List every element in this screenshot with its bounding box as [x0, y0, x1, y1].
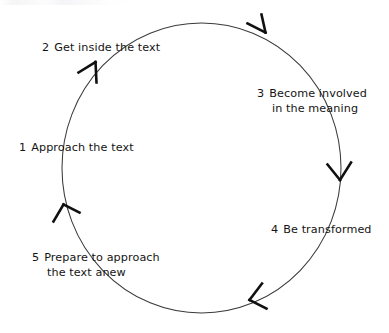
arrowhead-right-icon — [328, 163, 352, 181]
arrowhead-left-upper-icon — [79, 62, 97, 83]
arrowhead-left-lower-icon — [54, 205, 80, 222]
cycle-step-5-text-line2: the text anew — [47, 266, 160, 281]
cycle-step-3-text-line2: in the meaning — [272, 102, 367, 117]
arrowhead-top-right-icon — [248, 15, 266, 33]
arrowhead-bottom-icon — [250, 284, 267, 309]
cycle-step-5-label: 5Prepare to approach the text anew — [32, 251, 160, 280]
cycle-step-4-label: 4Be transformed — [271, 223, 372, 238]
cycle-step-4-text: Be transformed — [283, 223, 371, 236]
cycle-step-1-number: 1 — [19, 141, 26, 154]
cycle-step-2-text: Get inside the text — [54, 41, 160, 54]
cycle-step-3-label: 3Become involved in the meaning — [257, 87, 367, 116]
cycle-step-5-text: Prepare to approach — [44, 251, 160, 264]
cycle-step-1-label: 1Approach the text — [19, 141, 134, 156]
cycle-step-4-number: 4 — [271, 223, 278, 236]
cycle-step-2-label: 2Get inside the text — [42, 41, 160, 56]
cycle-step-2-number: 2 — [42, 41, 49, 54]
cycle-step-5-number: 5 — [32, 251, 39, 264]
cycle-step-1-text: Approach the text — [31, 141, 133, 154]
cycle-diagram: 1Approach the text 2Get inside the text … — [0, 0, 389, 333]
cycle-step-3-text: Become involved — [269, 87, 367, 100]
cycle-step-3-number: 3 — [257, 87, 264, 100]
